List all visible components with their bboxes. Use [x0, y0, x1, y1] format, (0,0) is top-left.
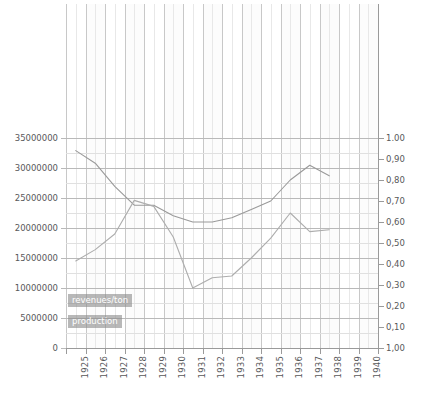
vertical-gridline	[242, 4, 243, 348]
y-axis-right-tick	[379, 180, 384, 181]
y-axis-left-tick	[61, 198, 66, 199]
x-axis-tick-label: 1935	[275, 356, 285, 378]
vertical-gridline-minor	[232, 4, 233, 348]
x-axis-tick	[320, 349, 321, 354]
vertical-gridline-minor	[329, 4, 330, 348]
y-axis-right-tick	[379, 327, 384, 328]
vertical-gridline-minor	[349, 4, 350, 348]
y-axis-right-tick	[379, 201, 384, 202]
vertical-gridline	[66, 4, 67, 348]
vertical-gridline	[339, 4, 340, 348]
x-axis-tick-label: 1930	[177, 356, 187, 378]
y-axis-right-line	[378, 4, 379, 349]
x-axis-tick	[281, 349, 282, 354]
y-axis-right-tick	[379, 159, 384, 160]
vertical-gridline	[183, 4, 184, 348]
y-axis-right-tick	[379, 306, 384, 307]
x-axis-tick	[164, 349, 165, 354]
vertical-gridline-minor	[271, 4, 272, 348]
horizontal-gridline-minor	[66, 153, 378, 154]
y-axis-right-tick-label: 0,90	[386, 154, 405, 164]
y-axis-right-tick-label: 1.00	[386, 133, 405, 143]
y-axis-left-tick-label: 20000000	[15, 223, 58, 233]
legend-item-production[interactable]: production	[68, 315, 122, 328]
x-axis-tick	[203, 349, 204, 354]
vertical-gridline-minor	[173, 4, 174, 348]
vertical-gridline-minor	[368, 4, 369, 348]
y-axis-left-tick-label: 0	[53, 343, 58, 353]
x-axis-tick	[183, 349, 184, 354]
y-axis-right-tick	[379, 222, 384, 223]
y-axis-left-tick	[61, 258, 66, 259]
y-axis-left-tick-label: 5000000	[20, 313, 58, 323]
vertical-gridline-minor	[193, 4, 194, 348]
vertical-gridline-minor	[212, 4, 213, 348]
y-axis-right-tick	[379, 243, 384, 244]
x-axis-tick	[86, 349, 87, 354]
vertical-gridline	[261, 4, 262, 348]
horizontal-gridline-minor	[66, 213, 378, 214]
x-axis-tick-label: 1934	[255, 356, 265, 378]
y-axis-left-tick-label: 30000000	[15, 163, 58, 173]
x-axis-tick-label: 1932	[216, 356, 226, 378]
y-axis-left-tick-label: 35000000	[15, 133, 58, 143]
vertical-gridline-minor	[251, 4, 252, 348]
y-axis-right-tick-label: 0,10	[386, 322, 405, 332]
x-axis-tick	[222, 349, 223, 354]
legend-item-revenues-ton[interactable]: revenues/ton	[68, 294, 132, 307]
x-axis-tick-label: 1936	[294, 356, 304, 378]
y-axis-right-tick-label: 0,20	[386, 301, 405, 311]
horizontal-gridline	[66, 228, 378, 229]
vertical-gridline	[300, 4, 301, 348]
x-axis-tick	[144, 349, 145, 354]
horizontal-gridline-minor	[66, 183, 378, 184]
x-axis-tick	[66, 349, 67, 354]
y-axis-left-tick	[61, 138, 66, 139]
x-axis-tick-label: 1939	[353, 356, 363, 378]
horizontal-gridline-minor	[66, 333, 378, 334]
y-axis-right-tick-label: 0,40	[386, 259, 405, 269]
vertical-gridline	[281, 4, 282, 348]
y-axis-left-tick	[61, 168, 66, 169]
x-axis-tick	[242, 349, 243, 354]
x-axis-tick	[300, 349, 301, 354]
horizontal-gridline-minor	[66, 273, 378, 274]
vertical-gridline	[144, 4, 145, 348]
horizontal-gridline	[66, 138, 378, 139]
y-axis-right-tick-label: 0,50	[386, 238, 405, 248]
vertical-gridline	[164, 4, 165, 348]
y-axis-left-tick-label: 15000000	[15, 253, 58, 263]
y-axis-right-tick-label: 0,30	[386, 280, 405, 290]
x-axis-tick-label: 1929	[158, 356, 168, 378]
x-axis-tick-label: 1938	[333, 356, 343, 378]
horizontal-gridline	[66, 168, 378, 169]
x-axis-tick	[359, 349, 360, 354]
vertical-gridline	[359, 4, 360, 348]
chart-root: 3500000030000000250000002000000015000000…	[0, 0, 424, 401]
x-axis-tick	[105, 349, 106, 354]
x-axis-tick-label: 1926	[99, 356, 109, 378]
vertical-gridline-minor	[310, 4, 311, 348]
y-axis-right-tick-label: 0,60	[386, 217, 405, 227]
y-axis-left-tick	[61, 318, 66, 319]
horizontal-gridline	[66, 258, 378, 259]
x-axis-tick-label: 1927	[119, 356, 129, 378]
x-axis-tick	[339, 349, 340, 354]
y-axis-right-tick-label: 1,00	[386, 343, 405, 353]
x-axis-tick-label: 1937	[314, 356, 324, 378]
horizontal-gridline	[66, 288, 378, 289]
y-axis-left-tick	[61, 288, 66, 289]
vertical-gridline-minor	[290, 4, 291, 348]
x-axis-tick-label: 1933	[236, 356, 246, 378]
vertical-gridline	[320, 4, 321, 348]
vertical-gridline	[203, 4, 204, 348]
vertical-gridline	[222, 4, 223, 348]
y-axis-left-tick-label: 25000000	[15, 193, 58, 203]
vertical-gridline-minor	[134, 4, 135, 348]
x-axis-tick-label: 1931	[197, 356, 207, 378]
horizontal-gridline-minor	[66, 243, 378, 244]
y-axis-left-tick-label: 10000000	[15, 283, 58, 293]
x-axis-tick-label: 1928	[138, 356, 148, 378]
y-axis-left-tick	[61, 228, 66, 229]
y-axis-right-tick	[379, 285, 384, 286]
